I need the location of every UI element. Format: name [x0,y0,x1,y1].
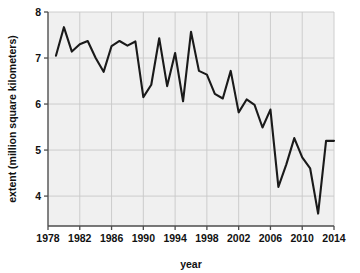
plot-area-background [48,12,334,226]
chart-canvas: 45678 1978198219861990199419982002200620… [0,0,360,273]
y-tick-label: 7 [35,52,41,64]
x-tick-label: 2010 [291,232,315,244]
y-tick-label: 4 [35,190,41,202]
y-tick-label: 6 [35,98,41,110]
x-tick-label: 1982 [68,232,92,244]
y-axis-label: extent (million square kilometers) [6,35,18,202]
x-axis-label: year [180,258,202,270]
line-chart: 45678 1978198219861990199419982002200620… [0,0,360,273]
y-tick-label: 8 [35,6,41,18]
x-tick-label: 1978 [36,232,60,244]
x-tick-label: 1994 [163,232,187,244]
y-tick-label: 5 [35,144,41,156]
x-tick-label: 2002 [227,232,251,244]
x-tick-label: 2006 [259,232,283,244]
x-tick-label: 1986 [100,232,124,244]
x-tick-label: 1998 [195,232,219,244]
x-tick-label: 2014 [322,232,346,244]
x-tick-label: 1990 [132,232,156,244]
